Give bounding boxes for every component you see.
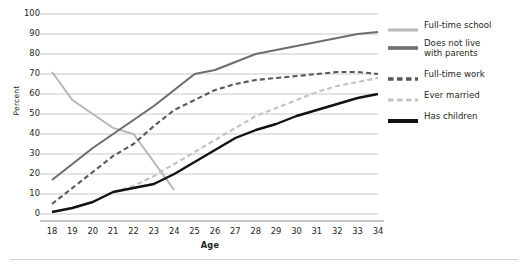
x-tick-label: 21: [103, 226, 123, 236]
x-tick-label: 19: [62, 226, 82, 236]
y-tick-label: 30: [14, 149, 40, 158]
x-tick-label: 25: [185, 226, 205, 236]
legend-line-icon: [388, 115, 418, 127]
x-tick-label: 34: [368, 226, 388, 236]
x-axis-title: Age: [40, 240, 380, 250]
x-tick-label: 20: [83, 226, 103, 236]
y-tick-label: 50: [14, 109, 40, 118]
legend-label: Full-time school: [424, 20, 492, 30]
y-tick-label: 10: [14, 189, 40, 198]
legend-swatch: [388, 21, 418, 33]
legend-item: Has children: [388, 111, 477, 124]
legend-line-icon: [388, 24, 418, 36]
legend-line-icon: [388, 42, 418, 54]
legend-label: Does not live with parents: [424, 38, 480, 59]
footer-divider: [10, 259, 518, 260]
plot-area: Percent 0102030405060708090100 181920212…: [0, 0, 385, 250]
legend-swatch: [388, 91, 418, 103]
x-tick-label: 18: [42, 226, 62, 236]
legend-swatch: [388, 39, 418, 51]
x-tick-label: 32: [327, 226, 347, 236]
line-chart: [0, 0, 385, 250]
y-tick-label: 0: [14, 209, 40, 218]
legend-swatch: [388, 112, 418, 124]
legend-item: Ever married: [388, 90, 480, 103]
x-tick-label: 33: [348, 226, 368, 236]
x-tick-label: 28: [246, 226, 266, 236]
y-tick-label: 60: [14, 89, 40, 98]
x-tick-label: 26: [205, 226, 225, 236]
legend-label: Full-time work: [424, 69, 485, 79]
legend-item: Does not live with parents: [388, 38, 480, 59]
legend-line-icon: [388, 94, 418, 106]
y-tick-label: 20: [14, 169, 40, 178]
x-tick-label: 24: [164, 226, 184, 236]
y-tick-label: 100: [14, 9, 40, 18]
legend-label: Ever married: [424, 90, 480, 100]
y-tick-label: 90: [14, 29, 40, 38]
x-tick-label: 27: [225, 226, 245, 236]
legend-label: Has children: [424, 111, 477, 121]
x-tick-label: 30: [287, 226, 307, 236]
figure: Percent 0102030405060708090100 181920212…: [0, 0, 528, 269]
y-tick-label: 70: [14, 69, 40, 78]
x-tick-label: 22: [124, 226, 144, 236]
y-tick-label: 80: [14, 49, 40, 58]
legend-swatch: [388, 70, 418, 82]
y-axis-title: Percent: [12, 69, 21, 133]
x-tick-label: 23: [144, 226, 164, 236]
x-tick-label: 31: [307, 226, 327, 236]
x-tick-label: 29: [266, 226, 286, 236]
legend-line-icon: [388, 73, 418, 85]
legend-item: Full-time work: [388, 69, 485, 82]
y-tick-label: 40: [14, 129, 40, 138]
legend-item: Full-time school: [388, 20, 492, 33]
